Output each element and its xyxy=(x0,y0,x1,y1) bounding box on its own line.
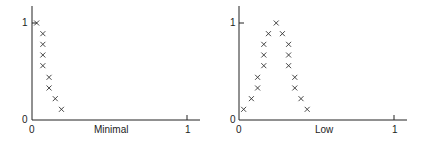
y-tick-1: 1 xyxy=(230,18,236,28)
x-marker-icon xyxy=(255,85,260,90)
x-marker-icon xyxy=(249,96,254,101)
x-marker-icon xyxy=(292,85,297,90)
x-marker-icon xyxy=(40,53,45,58)
x-marker-icon xyxy=(40,63,45,68)
x-marker-icon xyxy=(274,21,279,26)
x-marker-icon xyxy=(261,63,266,68)
x-marker-icon xyxy=(47,75,52,80)
x-marker-icon xyxy=(305,107,310,112)
plot-area xyxy=(211,0,423,141)
x-marker-icon xyxy=(40,42,45,47)
y-tick-1: 1 xyxy=(22,18,28,28)
chart-minimal: 1 0 0 1 Minimal xyxy=(0,0,211,141)
x-marker-icon xyxy=(286,63,291,68)
y-tick-0: 0 xyxy=(230,115,236,125)
x-marker-icon xyxy=(261,53,266,58)
x-marker-icon xyxy=(59,107,64,112)
x-tick-0: 0 xyxy=(236,125,242,135)
x-axis-label: Low xyxy=(315,125,333,135)
x-marker-icon xyxy=(286,53,291,58)
x-axis-label: Minimal xyxy=(94,125,128,135)
x-tick-1: 1 xyxy=(185,125,191,135)
x-marker-icon xyxy=(286,42,291,47)
x-marker-icon xyxy=(280,31,285,36)
plot-area xyxy=(0,0,211,141)
x-marker-icon xyxy=(261,42,266,47)
x-marker-icon xyxy=(47,85,52,90)
x-marker-icon xyxy=(53,96,58,101)
x-marker-icon xyxy=(299,96,304,101)
x-marker-icon xyxy=(255,75,260,80)
x-marker-icon xyxy=(40,31,45,36)
x-marker-icon xyxy=(241,107,246,112)
x-tick-1: 1 xyxy=(392,125,398,135)
x-tick-0: 0 xyxy=(29,125,35,135)
y-tick-0: 0 xyxy=(22,115,28,125)
x-marker-icon xyxy=(266,31,271,36)
x-marker-icon xyxy=(292,75,297,80)
chart-low: 1 0 0 1 Low xyxy=(211,0,422,141)
